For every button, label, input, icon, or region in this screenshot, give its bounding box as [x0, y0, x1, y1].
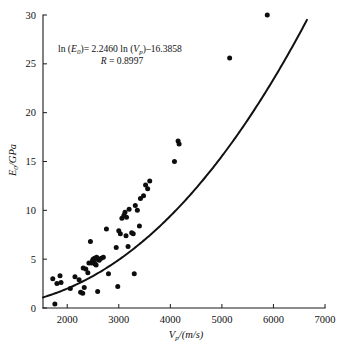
data-point: [118, 231, 123, 236]
data-point: [94, 263, 99, 268]
data-point: [77, 277, 82, 282]
data-point: [82, 285, 87, 290]
x-axis-tick-labels: 200030004000500060007000: [57, 314, 336, 325]
data-point: [104, 226, 109, 231]
x-axis-title: Vp/(m/s): [169, 329, 204, 342]
x-tick-label-4000: 4000: [160, 314, 181, 325]
data-point: [131, 231, 136, 236]
data-point: [124, 233, 129, 238]
data-point: [127, 207, 132, 212]
data-point: [68, 286, 73, 291]
data-point: [80, 291, 85, 296]
data-point: [132, 271, 137, 276]
x-tick-label-7000: 7000: [315, 314, 336, 325]
data-point: [147, 179, 152, 184]
y-tick-label-30: 30: [26, 10, 37, 21]
y-tick-label-0: 0: [31, 303, 36, 314]
data-point: [114, 245, 119, 250]
x-tick-label-6000: 6000: [263, 314, 284, 325]
data-point: [227, 55, 232, 60]
data-point: [137, 223, 142, 228]
data-point: [135, 208, 140, 213]
data-point: [126, 244, 131, 249]
data-point: [106, 271, 111, 276]
data-point: [101, 255, 106, 260]
data-point: [133, 203, 138, 208]
plot-axes: [43, 15, 325, 308]
data-point: [115, 284, 120, 289]
data-point: [172, 159, 177, 164]
data-point: [72, 274, 77, 279]
y-tick-label-20: 20: [26, 107, 37, 118]
data-point: [85, 270, 90, 275]
svg-text:E0/GPa: E0/GPa: [7, 144, 20, 177]
data-point: [88, 239, 93, 244]
x-axis-ticks: [67, 304, 325, 308]
data-point: [122, 210, 127, 215]
y-tick-label-10: 10: [26, 205, 37, 216]
y-axis-ticks: [43, 15, 47, 308]
y-tick-label-25: 25: [26, 58, 37, 69]
data-points-layer: [50, 13, 269, 307]
regression-annotation: ln (E0)= 2.2460 ln (Vp)–16.3858 R = 0.89…: [58, 43, 182, 66]
svg-text:R = 0.8997: R = 0.8997: [100, 55, 144, 66]
data-point: [265, 13, 270, 18]
scatter-plot: 051015202530 200030004000500060007000 E0…: [0, 0, 344, 350]
data-point: [145, 186, 150, 191]
x-tick-label-2000: 2000: [57, 314, 78, 325]
figure-container: 051015202530 200030004000500060007000 E0…: [0, 0, 344, 350]
data-point: [58, 273, 63, 278]
data-point: [124, 215, 129, 220]
data-point: [59, 280, 64, 285]
y-tick-label-5: 5: [31, 254, 36, 265]
data-point: [50, 276, 55, 281]
svg-text:Vp/(m/s): Vp/(m/s): [169, 329, 204, 342]
data-point: [52, 302, 57, 307]
y-axis-tick-labels: 051015202530: [26, 10, 37, 314]
x-tick-label-5000: 5000: [211, 314, 232, 325]
regression-curve: [43, 20, 307, 297]
x-tick-label-3000: 3000: [108, 314, 129, 325]
y-tick-label-15: 15: [26, 156, 37, 167]
y-axis-title: E0/GPa: [7, 144, 20, 177]
data-point: [141, 193, 146, 198]
data-point: [177, 141, 182, 146]
data-point: [95, 289, 100, 294]
